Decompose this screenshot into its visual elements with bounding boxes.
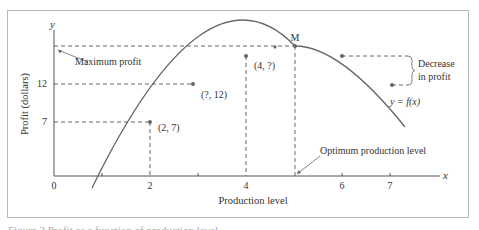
x-tick-7: 7 [388, 180, 393, 191]
optimum-arrowhead [297, 170, 301, 174]
y-axis-title: Profit (dollars) [19, 72, 31, 135]
figure-caption: Figure 2 Profit as a function of product… [8, 224, 218, 230]
point-label-2-7: (2, 7) [158, 122, 180, 134]
x-tick-2: 2 [148, 180, 153, 191]
y-axis-symbol: y [49, 18, 55, 30]
optimum-arrow [297, 156, 320, 174]
x-axis-title: Production level [218, 195, 287, 206]
y-tick-12: 12 [37, 78, 47, 89]
function-label: y = f(x) [389, 96, 421, 108]
max-profit-label: Maximum profit [75, 56, 142, 67]
y-tick-7: 7 [42, 116, 47, 127]
max-point-label: M [291, 32, 300, 43]
decrease-bracket [408, 56, 415, 85]
profit-chart: y x 7 12 0 2 4 6 7 Production level Prof… [0, 0, 479, 230]
decrease-label-line2: in profit [418, 71, 451, 82]
decrease-label-line1: Decrease [418, 58, 455, 69]
x-tick-0: 0 [52, 180, 57, 191]
x-tick-4: 4 [244, 180, 249, 191]
optimum-label: Optimum production level [320, 145, 426, 156]
x-axis-symbol: x [442, 169, 448, 181]
x-tick-6: 6 [340, 180, 345, 191]
profit-curve [92, 20, 405, 188]
point-label-4-q: (4, ?) [254, 60, 275, 72]
point-label-q-12: (?, 12) [201, 89, 227, 101]
